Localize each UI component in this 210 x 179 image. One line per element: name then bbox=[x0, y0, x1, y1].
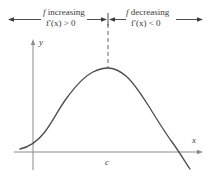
right-interval-condition: f′(x) < 0 bbox=[131, 19, 161, 28]
x-axis bbox=[14, 150, 203, 154]
right-interval-label: f decreasing bbox=[126, 8, 169, 17]
y-axis bbox=[31, 39, 35, 170]
left-interval-label: f increasing bbox=[43, 8, 85, 17]
function-curve bbox=[20, 68, 190, 169]
y-axis-label: y bbox=[39, 38, 43, 47]
arrow-left-small-icon bbox=[109, 17, 126, 21]
arrow-left-icon bbox=[8, 17, 41, 21]
increasing-decreasing-function-diagram: f increasing f′(x) > 0 f decreasing f′(x… bbox=[0, 0, 210, 179]
arrow-right-icon bbox=[176, 17, 203, 21]
diagram-canvas bbox=[0, 0, 210, 179]
left-interval-condition: f′(x) > 0 bbox=[46, 19, 76, 28]
x-axis-label: x bbox=[192, 136, 196, 145]
arrow-right-small-icon bbox=[87, 17, 107, 21]
critical-point-label: c bbox=[105, 158, 109, 167]
